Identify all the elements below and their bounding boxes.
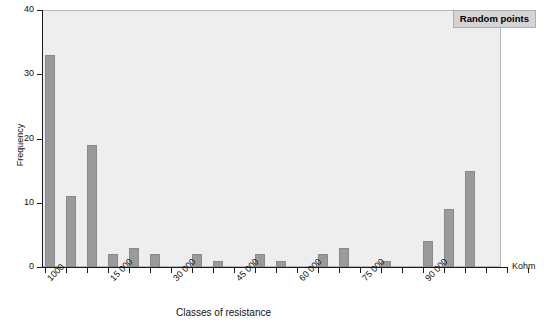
y-axis-tick-label: 10 xyxy=(12,197,34,207)
y-axis-tick xyxy=(37,74,42,75)
bar xyxy=(339,248,349,267)
bar xyxy=(45,55,55,267)
x-axis-tick xyxy=(45,268,46,273)
x-axis-tick xyxy=(465,268,466,273)
y-axis-tick xyxy=(37,139,42,140)
y-axis-title: Frequency xyxy=(15,105,25,185)
x-axis-tick xyxy=(150,268,151,273)
x-axis-tick xyxy=(360,268,361,273)
x-axis-tick xyxy=(234,268,235,273)
bar-series xyxy=(42,10,508,267)
bar xyxy=(423,241,433,267)
y-axis-line xyxy=(42,10,43,268)
x-axis-tick xyxy=(171,268,172,273)
x-axis-tick xyxy=(423,268,424,273)
x-axis-tick xyxy=(486,268,487,273)
x-axis-title: Classes of resistance xyxy=(176,307,271,318)
x-axis-tick xyxy=(276,268,277,273)
y-axis-tick xyxy=(37,267,42,268)
x-axis-tick xyxy=(297,268,298,273)
bar xyxy=(465,171,475,267)
y-axis-tick-label: 0 xyxy=(12,261,34,271)
bar xyxy=(108,254,118,267)
bar xyxy=(444,209,454,267)
x-axis-tick xyxy=(213,268,214,273)
chart-figure: 010203040 100015 00030 00045 00060 00075… xyxy=(0,0,546,324)
bar xyxy=(66,196,76,267)
x-axis-tick xyxy=(108,268,109,273)
bar xyxy=(150,254,160,267)
x-axis-tick xyxy=(507,268,508,273)
x-axis-tick xyxy=(339,268,340,273)
x-axis-tick xyxy=(87,268,88,273)
y-axis-tick xyxy=(37,10,42,11)
x-axis-tick xyxy=(402,268,403,273)
y-axis-tick-label: 30 xyxy=(12,68,34,78)
bar xyxy=(87,145,97,267)
x-axis-unit-label: Kohm xyxy=(512,261,536,271)
legend-box: Random points xyxy=(453,10,536,28)
y-axis-tick xyxy=(37,203,42,204)
y-axis-tick-label: 40 xyxy=(12,4,34,14)
